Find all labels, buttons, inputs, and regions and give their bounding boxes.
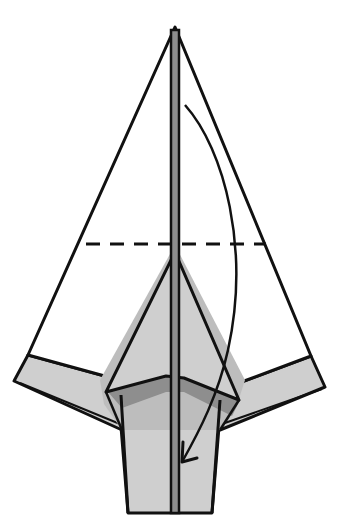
origami-diagram	[0, 0, 344, 529]
center-spine	[171, 30, 179, 513]
diagram-canvas	[0, 0, 344, 529]
